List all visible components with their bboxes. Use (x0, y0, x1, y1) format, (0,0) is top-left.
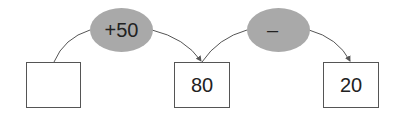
arc-middle-to-op2 (202, 30, 247, 62)
operation-plus-50: +50 (90, 8, 153, 52)
box-value: 20 (340, 74, 362, 97)
operation-label: +50 (105, 19, 139, 42)
box-middle: 80 (174, 62, 230, 108)
operation-label: – (267, 19, 278, 42)
arc-start-to-op1 (54, 30, 90, 62)
box-value: 80 (191, 74, 213, 97)
arc-op1-to-middle (152, 30, 201, 61)
arc-op2-to-end (309, 30, 350, 61)
box-end: 20 (323, 62, 379, 108)
box-start (26, 62, 81, 108)
operation-minus: – (247, 8, 310, 52)
